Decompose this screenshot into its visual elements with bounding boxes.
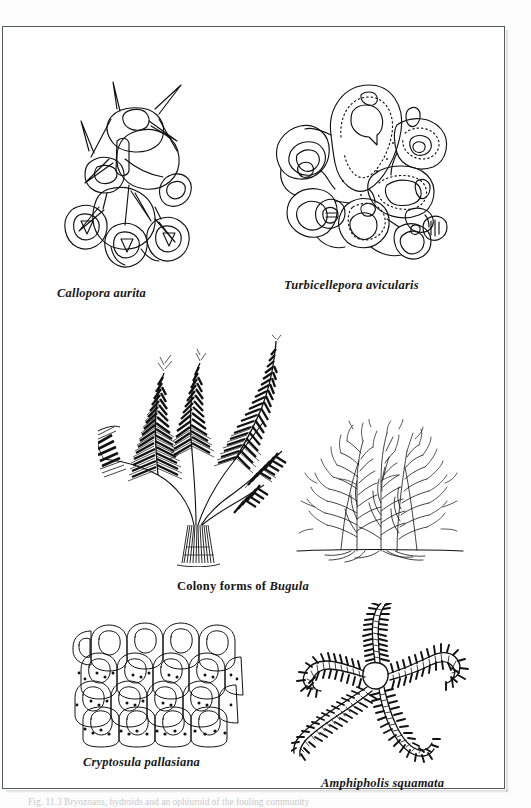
caption-bugula-genus: Bugula	[269, 579, 308, 593]
scan-shadow-right-edge	[506, 30, 509, 792]
figure-bugula-bushy-colony	[295, 419, 465, 564]
figure-turbicellepora-avicularis	[265, 77, 465, 267]
scan-shadow-bottom-edge	[6, 790, 508, 793]
cryptosula-pallasiana-drawing	[61, 613, 246, 748]
bugula-branching-colony-drawing	[98, 335, 288, 567]
page-surface: Callopora aurita	[0, 0, 531, 808]
caption-bugula-colony-forms: Colony forms of Bugula	[177, 579, 309, 594]
amphipholis-squamata-drawing	[291, 603, 476, 765]
figure-plate-frame: Callopora aurita	[2, 26, 505, 789]
figure-number-caption-cutoff: Fig. 11.3 Bryozoans, hydroids and an oph…	[28, 797, 458, 808]
caption-bugula-prefix: Colony forms of	[177, 579, 269, 593]
caption-cryptosula-pallasiana: Cryptosula pallasiana	[83, 755, 200, 770]
bugula-bushy-colony-drawing	[295, 419, 465, 564]
turbicellepora-avicularis-drawing	[265, 77, 465, 267]
caption-amphipholis-squamata: Amphipholis squamata	[321, 776, 444, 791]
caption-turbicellepora-avicularis: Turbicellepora avicularis	[284, 278, 419, 293]
figure-amphipholis-squamata	[291, 603, 476, 765]
figure-bugula-branching-colony	[98, 335, 288, 567]
figure-callopora-aurita	[51, 79, 221, 269]
callopora-aurita-drawing	[51, 79, 221, 269]
caption-callopora-aurita: Callopora aurita	[57, 286, 146, 301]
figure-cryptosula-pallasiana	[61, 613, 246, 748]
